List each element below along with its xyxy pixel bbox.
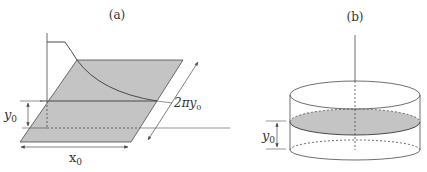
figure-a-label: (a) — [109, 8, 126, 22]
figure-a: (a) y0 x0 2πy0 — [3, 8, 230, 167]
figure-b: (b) y0 — [261, 10, 420, 160]
label-leader — [157, 101, 172, 103]
diagram-canvas: (a) y0 x0 2πy0 (b) — [0, 0, 427, 172]
x0-label: x0 — [69, 150, 82, 167]
circumference-label: 2πy0 — [173, 96, 201, 112]
figure-b-label: (b) — [346, 10, 363, 24]
cylinder-bottom-front — [290, 150, 420, 160]
y0-label: y0 — [3, 107, 17, 124]
y0-label-b: y0 — [261, 128, 275, 145]
